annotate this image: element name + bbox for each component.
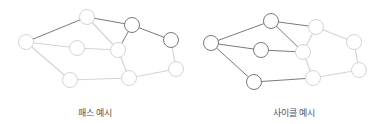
graph-node [247,75,262,90]
graph-node [122,71,137,86]
graph-node [264,14,279,29]
graph-node [80,10,95,25]
graph-node [204,36,219,51]
path-example-label: 패스 예시 [35,106,155,119]
graph-edge [254,78,313,82]
graph-edge [211,21,271,43]
graph-edge [26,42,70,80]
path-example [19,10,184,88]
graph-node [347,35,362,50]
graph-node [125,18,140,33]
graph-edge [211,43,254,82]
graph-node [309,20,324,35]
graph-edge [70,78,129,80]
graph-node [111,43,126,58]
graph-edge [26,17,87,42]
cycle-example [204,14,367,90]
graph-node [19,35,34,50]
graph-node [63,73,78,88]
graph-node [296,45,311,60]
graph-node [306,71,321,86]
cycle-example-label: 사이클 예시 [234,106,354,119]
graph-node [164,33,179,48]
graph-node [254,43,269,58]
graph-node [352,63,367,78]
graph-node [70,41,85,56]
graph-node [169,62,184,77]
